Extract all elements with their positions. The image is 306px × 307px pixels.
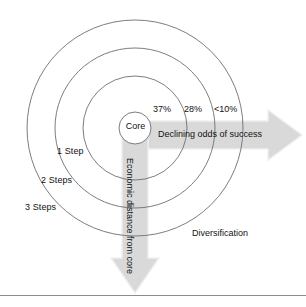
vertical-arrow-label: Economic distance from core <box>125 158 135 274</box>
odds-label-3-steps: <10% <box>214 104 237 114</box>
diagram-canvas <box>0 0 306 307</box>
bottom-divider <box>0 295 306 296</box>
ring-label-2-steps: 2 Steps <box>41 175 72 185</box>
ring-label-3-steps: 3 Steps <box>25 202 56 212</box>
vertical-arrow-shape <box>111 136 159 293</box>
odds-label-2-steps: 28% <box>184 104 202 114</box>
diversification-label: Diversification <box>192 228 248 238</box>
concentric-rings-diagram: Core 37% 28% <10% 1 Step 2 Steps 3 Steps… <box>0 0 306 307</box>
ring-label-1-step: 1 Step <box>57 146 84 156</box>
horizontal-arrow-label: Declining odds of success <box>158 129 262 139</box>
odds-label-1-step: 37% <box>153 104 171 114</box>
core-label: Core <box>120 121 151 131</box>
